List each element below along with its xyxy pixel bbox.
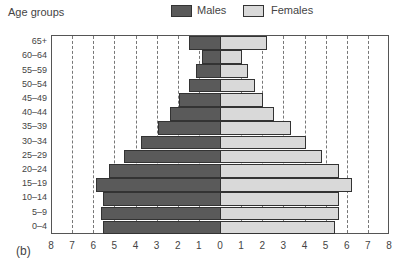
y-tick-label: 25–29 bbox=[3, 150, 47, 160]
bar-female bbox=[220, 64, 248, 78]
x-tick-label: 5 bbox=[319, 240, 333, 251]
y-tick-label: 40–44 bbox=[3, 107, 47, 117]
panel-label: (b) bbox=[16, 244, 31, 258]
x-tick-label: 3 bbox=[276, 240, 290, 251]
y-tick-label: 0–4 bbox=[3, 221, 47, 231]
plot-area bbox=[51, 35, 389, 234]
y-tick-label: 50–54 bbox=[3, 79, 47, 89]
bar-male bbox=[103, 221, 221, 235]
y-tick-label: 30–34 bbox=[3, 136, 47, 146]
bar-male bbox=[109, 164, 221, 178]
x-tick-label: 7 bbox=[361, 240, 375, 251]
bar-female bbox=[220, 164, 339, 178]
y-tick-label: 60–64 bbox=[3, 50, 47, 60]
bar-female bbox=[220, 192, 339, 206]
x-tick-label: 8 bbox=[44, 240, 58, 251]
x-tick-label: 1 bbox=[192, 240, 206, 251]
y-tick-label: 15–19 bbox=[3, 178, 47, 188]
x-tick-label: 5 bbox=[107, 240, 121, 251]
x-tick-label: 2 bbox=[255, 240, 269, 251]
x-tick-label: 0 bbox=[213, 240, 227, 251]
bar-male bbox=[124, 150, 221, 164]
bar-female bbox=[220, 36, 267, 50]
bar-male bbox=[196, 64, 221, 78]
legend-label-males: Males bbox=[197, 4, 226, 16]
legend-swatch-females bbox=[243, 5, 264, 17]
x-tick-label: 2 bbox=[171, 240, 185, 251]
bar-male bbox=[179, 93, 221, 107]
x-tick-label: 3 bbox=[150, 240, 164, 251]
y-tick-label: 5–9 bbox=[3, 207, 47, 217]
grid-line bbox=[93, 36, 94, 233]
x-tick-label: 1 bbox=[234, 240, 248, 251]
x-tick-label: 8 bbox=[382, 240, 396, 251]
bar-female bbox=[220, 107, 274, 121]
bar-male bbox=[96, 178, 221, 192]
bar-female bbox=[220, 50, 242, 64]
grid-line bbox=[347, 36, 348, 233]
x-tick-label: 4 bbox=[298, 240, 312, 251]
bar-male bbox=[202, 50, 221, 64]
x-tick-label: 7 bbox=[65, 240, 79, 251]
x-tick-label: 6 bbox=[86, 240, 100, 251]
bar-male bbox=[141, 136, 221, 150]
grid-line bbox=[72, 36, 73, 233]
x-tick-label: 6 bbox=[340, 240, 354, 251]
bar-female bbox=[220, 221, 335, 235]
bar-female bbox=[220, 121, 291, 135]
y-tick-label: 55–59 bbox=[3, 65, 47, 75]
bar-male bbox=[189, 36, 221, 50]
legend-swatch-males bbox=[171, 5, 192, 17]
legend-label-females: Females bbox=[271, 4, 313, 16]
y-tick-label: 20–24 bbox=[3, 164, 47, 174]
y-tick-label: 45–49 bbox=[3, 93, 47, 103]
bar-female bbox=[220, 207, 339, 221]
grid-line bbox=[368, 36, 369, 233]
x-tick-label: 4 bbox=[129, 240, 143, 251]
bar-female bbox=[220, 79, 255, 93]
bar-male bbox=[101, 207, 221, 221]
bar-male bbox=[189, 79, 221, 93]
bar-male bbox=[170, 107, 221, 121]
bar-female bbox=[220, 178, 352, 192]
bar-female bbox=[220, 150, 322, 164]
bar-male bbox=[103, 192, 221, 206]
bar-female bbox=[220, 136, 306, 150]
y-tick-label: 65+ bbox=[3, 36, 47, 46]
bar-male bbox=[158, 121, 221, 135]
y-tick-label: 35–39 bbox=[3, 121, 47, 131]
bar-female bbox=[220, 93, 263, 107]
y-tick-label: 10–14 bbox=[3, 192, 47, 202]
y-axis-title: Age groups bbox=[8, 6, 64, 18]
